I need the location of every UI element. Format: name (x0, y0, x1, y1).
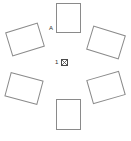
center-marker-group: 1 (55, 59, 68, 66)
panel-top[interactable] (56, 3, 81, 33)
diagram-canvas: A 1 (0, 0, 131, 141)
panel-upper-left[interactable] (5, 23, 45, 57)
panel-letter-label: A (49, 25, 53, 31)
panel-lower-left[interactable] (4, 72, 43, 105)
center-number-label: 1 (55, 59, 58, 66)
panel-lower-right[interactable] (86, 71, 126, 104)
panel-upper-right[interactable] (86, 26, 126, 60)
panel-bottom[interactable] (56, 99, 81, 130)
hatched-square-marker-icon (61, 59, 68, 66)
